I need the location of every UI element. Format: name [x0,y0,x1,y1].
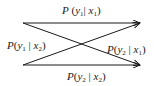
label-fn: P [7,39,14,51]
label-fn: P [62,4,69,16]
label-p-y2-x2: P(y2 | x2) [67,70,106,82]
label-ysub: 2 [82,76,86,84]
label-xsub: 1 [93,10,97,18]
label-p-y1-x1: P (y1| x1) [62,4,101,16]
label-ysub: 2 [122,49,126,57]
label-ysub: 1 [80,10,84,18]
label-xsub: 2 [98,76,102,84]
label-fn: P [107,43,114,55]
channel-diagram: P (y1| x1) P(y1 | x2) P(y2 | x1) P(y2 | … [0,0,154,86]
label-ysub: 1 [22,45,26,53]
label-p-y2-x1: P(y2 | x1) [107,43,146,55]
label-xsub: 1 [138,49,142,57]
label-fn: P [67,70,74,82]
label-xsub: 2 [38,45,42,53]
label-p-y1-x2: P(y1 | x2) [7,39,46,51]
